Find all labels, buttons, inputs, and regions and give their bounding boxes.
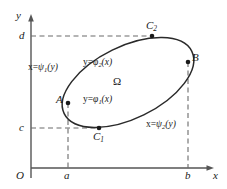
y-axis-label: y	[16, 10, 21, 21]
region-boundary-ellipse	[48, 19, 207, 146]
y-tick-label-c: c	[19, 122, 24, 133]
psi2-lhs: x=	[146, 119, 156, 129]
point-B-marker	[186, 60, 191, 65]
point-C1-subscript: 1	[100, 135, 104, 144]
psi1-lhs: x=	[28, 62, 38, 72]
x-tick-label-b: b	[185, 170, 191, 181]
point-A-marker	[66, 101, 71, 106]
point-C2-marker	[150, 34, 155, 39]
point-B-label: B	[192, 52, 199, 63]
region-omega-label: Ω	[113, 76, 121, 87]
point-C1-label: C1	[93, 131, 104, 143]
math-diagram-figure: y x O d c a b A B C1 C2 Ω x=ψ1(y) x=ψ2(y…	[0, 0, 227, 189]
x-axis-label: x	[213, 170, 218, 181]
y-tick-label-d: d	[19, 30, 25, 41]
point-A-label: A	[56, 94, 63, 105]
phi2-lhs: y=	[83, 57, 93, 67]
psi2-arg: (y)	[165, 119, 176, 129]
phi2-arg: (x)	[102, 57, 113, 67]
y-axis-arrowhead	[28, 14, 34, 22]
psi1-arg: (y)	[47, 62, 58, 72]
diagram-canvas	[0, 0, 227, 189]
boundary-label-psi2: x=ψ2(y)	[146, 120, 176, 130]
phi1-arg: (x)	[102, 94, 113, 104]
point-C2-label: C2	[146, 20, 157, 32]
boundary-label-psi1: x=ψ1(y)	[28, 63, 58, 73]
phi1-lhs: y=	[83, 94, 93, 104]
point-C2-subscript: 2	[153, 24, 157, 33]
boundary-label-phi1: y=φ1(x)	[83, 95, 112, 105]
origin-label: O	[16, 170, 24, 181]
x-tick-label-a: a	[64, 170, 70, 181]
boundary-label-phi2: y=φ2(x)	[83, 58, 112, 68]
